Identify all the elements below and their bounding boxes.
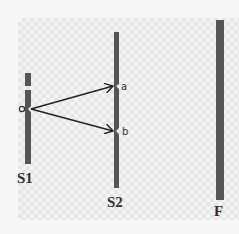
barrier-s1 <box>25 73 31 164</box>
ray-to-a <box>31 86 113 109</box>
ray-to-b <box>31 109 113 131</box>
barrier-label-s1: S1 <box>17 170 33 186</box>
slit-label-b: b <box>122 126 128 137</box>
barrier-label-s2: S2 <box>107 194 123 210</box>
diagram-stage: a b S1 S2 F <box>0 0 239 234</box>
screen-f <box>216 20 224 200</box>
diagram-svg: a b S1 S2 F <box>0 0 239 234</box>
barrier-label-f: F <box>214 203 223 219</box>
slit-label-a: a <box>121 81 127 92</box>
barrier-s2 <box>114 32 119 188</box>
source-point-icon <box>19 106 24 111</box>
